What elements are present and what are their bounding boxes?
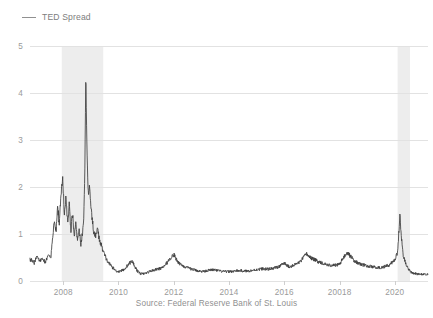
y-tick-label: 4 <box>18 89 23 98</box>
x-tick-labels: 20082010201220142016200182020 <box>54 288 405 297</box>
x-tick-label: 2008 <box>54 288 73 297</box>
recession-band <box>398 46 410 281</box>
x-tick-label: 2010 <box>109 288 128 297</box>
plot-area: 012345 20082010201220142016200182020 <box>0 0 433 318</box>
recession-bands <box>62 46 410 281</box>
y-tick-label: 2 <box>18 183 23 192</box>
y-tick-labels: 012345 <box>18 42 23 286</box>
y-tick-label: 3 <box>18 136 23 145</box>
y-tick-label: 1 <box>18 230 23 239</box>
recession-band <box>62 46 103 281</box>
source-caption: Source: Federal Reserve Bank of St. Loui… <box>0 299 433 308</box>
x-tick-label: 20018 <box>328 288 352 297</box>
x-tick-label: 2012 <box>164 288 183 297</box>
y-tick-label: 0 <box>18 277 23 286</box>
ted-spread-chart: TED Spread Percent 012345 20082010201220… <box>0 0 433 318</box>
x-axis-ticks <box>30 281 428 285</box>
x-tick-label: 2014 <box>219 288 238 297</box>
x-tick-label: 2020 <box>385 288 404 297</box>
x-tick-label: 2016 <box>275 288 294 297</box>
y-tick-label: 5 <box>18 42 23 51</box>
